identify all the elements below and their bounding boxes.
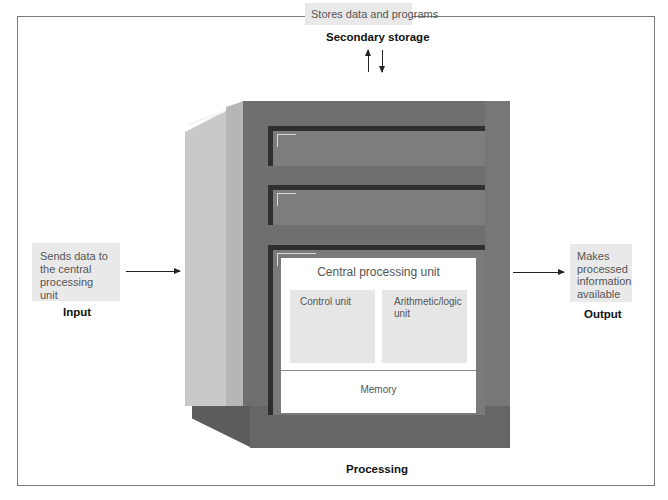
cpu-title: Central processing unit: [281, 265, 476, 279]
secondary-storage-description: Stores data and programs: [305, 3, 412, 25]
cpu-panel: Central processing unit Control unit Ari…: [281, 258, 476, 413]
arrow-down-icon: [382, 50, 383, 72]
output-line-4: available: [577, 288, 625, 301]
memory-label: Memory: [281, 384, 476, 395]
input-line-3: processing unit: [40, 276, 112, 302]
input-line-1: Sends data to: [40, 250, 112, 263]
drive-bay-1: [268, 126, 485, 166]
input-description: Sends data to the central processing uni…: [32, 243, 120, 301]
arrow-right-output-icon: [513, 272, 564, 273]
secondary-storage-label: Secondary storage: [326, 31, 430, 43]
cabinet-right-edge: [485, 101, 510, 406]
output-line-1: Makes: [577, 250, 625, 263]
output-line-2: processed: [577, 263, 625, 276]
arrow-right-icon: [126, 271, 180, 272]
output-description: Makes processed information available: [570, 244, 632, 302]
output-line-3: information: [577, 275, 625, 288]
output-label: Output: [584, 308, 622, 320]
cabinet-side-edge: [226, 101, 244, 406]
alu-unit: Arithmetic/logic unit: [382, 290, 467, 363]
input-label: Input: [63, 306, 91, 318]
input-line-2: the central: [40, 263, 112, 276]
processing-label: Processing: [346, 463, 408, 475]
memory-divider: [281, 370, 476, 371]
arrow-up-icon: [368, 50, 369, 72]
control-unit: Control unit: [290, 290, 375, 363]
drive-bay-2: [268, 185, 485, 225]
